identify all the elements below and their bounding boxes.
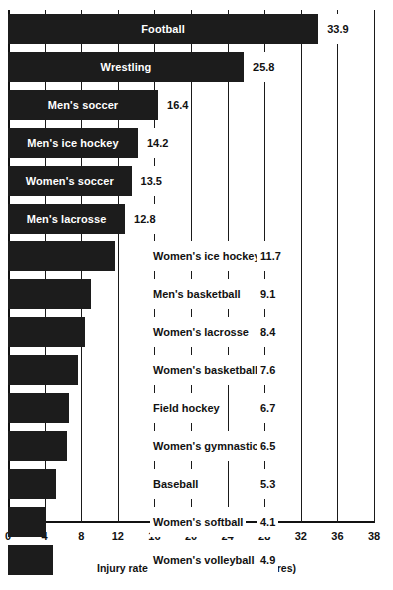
bar-label: Men's lacrosse (8, 204, 125, 234)
bar-label: Women's softball (150, 507, 246, 537)
bar (8, 393, 69, 423)
x-tick-38: 38 (362, 530, 386, 542)
bar-value: 33.9 (324, 14, 351, 44)
bar-value: 25.8 (250, 52, 277, 82)
bar-value: 4.9 (257, 545, 278, 575)
bar (8, 279, 91, 309)
bar-label: Women's soccer (8, 166, 132, 196)
bar-label: Football (8, 14, 318, 44)
bar-label: Field hockey (150, 393, 223, 423)
gridline-12 (118, 10, 119, 523)
x-tick-36: 36 (325, 530, 349, 542)
bar-value: 7.6 (257, 355, 278, 385)
bar-label: Wrestling (8, 52, 244, 82)
bar-label: Women's volleyball (150, 545, 257, 575)
bar-label: Women's gymnastics (150, 431, 268, 461)
x-tick-8: 8 (69, 530, 93, 542)
bar (8, 545, 53, 575)
bar-value: 14.2 (144, 128, 171, 158)
bar-label: Women's basketball (150, 355, 261, 385)
bar-label: Women's ice hockey (150, 241, 264, 271)
bar-value: 4.1 (257, 507, 278, 537)
bar-label: Women's lacrosse (150, 317, 252, 347)
bar-value: 12.8 (131, 204, 158, 234)
gridline-32 (301, 10, 302, 523)
bar-value: 13.5 (138, 166, 165, 196)
bar (8, 507, 46, 537)
x-tick-32: 32 (289, 530, 313, 542)
bar-label: Men's ice hockey (8, 128, 138, 158)
bar-label: Men's soccer (8, 90, 158, 120)
bar-value: 8.4 (257, 317, 278, 347)
bar-value: 6.5 (257, 431, 278, 461)
bar-value: 16.4 (164, 90, 191, 120)
bar (8, 317, 85, 347)
bar-value: 6.7 (257, 393, 278, 423)
injury-rate-bar-chart: FootballWrestlingMen's soccerMen's ice h… (0, 0, 393, 590)
bar (8, 469, 56, 499)
bar-value: 11.7 (257, 241, 284, 271)
gridline-36 (337, 10, 338, 523)
x-tick-12: 12 (106, 530, 130, 542)
bar (8, 431, 67, 461)
gridline-38 (374, 10, 375, 523)
bar-value: 9.1 (257, 279, 278, 309)
bar (8, 241, 115, 271)
plot-area: FootballWrestlingMen's soccerMen's ice h… (8, 10, 375, 523)
bar (8, 355, 78, 385)
bar-label: Baseball (150, 469, 201, 499)
bar-label: Men's basketball (150, 279, 244, 309)
bar-value: 5.3 (257, 469, 278, 499)
